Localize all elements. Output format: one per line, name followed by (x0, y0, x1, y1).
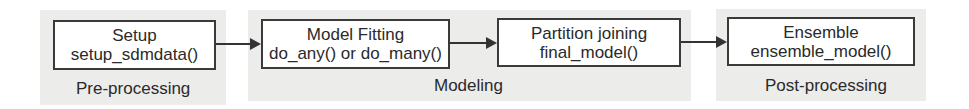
node-setup: Setup setup_sdmdata() (53, 20, 216, 70)
node-partition-joining-function: final_model() (540, 43, 638, 62)
group-label-modeling: Modeling (434, 76, 503, 96)
node-model-fitting-title: Model Fitting (307, 25, 404, 44)
node-partition-joining-title: Partition joining (531, 24, 647, 43)
node-model-fitting-function: do_any() or do_many() (269, 44, 442, 63)
node-ensemble: Ensemble ensemble_model() (727, 17, 915, 66)
node-partition-joining: Partition joining final_model() (497, 18, 681, 67)
edge-setup-to-fitting (216, 43, 259, 45)
node-model-fitting: Model Fitting do_any() or do_many() (261, 19, 450, 69)
edge-fitting-to-joining (450, 42, 495, 44)
edge-joining-to-ensemble (681, 41, 725, 43)
group-label-pre-processing: Pre-processing (76, 79, 190, 99)
group-label-post-processing: Post-processing (765, 76, 887, 96)
node-setup-function: setup_sdmdata() (71, 45, 199, 64)
node-ensemble-title: Ensemble (783, 23, 859, 42)
node-ensemble-function: ensemble_model() (751, 42, 892, 61)
node-setup-title: Setup (112, 26, 156, 45)
